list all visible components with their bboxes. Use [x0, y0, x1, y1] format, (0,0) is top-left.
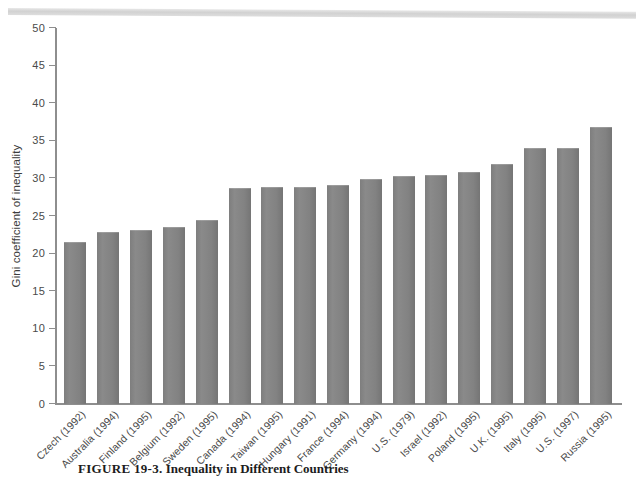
page-top-rule [8, 8, 636, 19]
y-axis-title: Gini coefficient of inequality [8, 28, 24, 404]
y-axis-tick: 25 [49, 215, 56, 216]
y-axis-line [55, 28, 57, 404]
y-axis-tick-label: 35 [32, 134, 45, 146]
figure-caption: FIGURE 19-3. Inequality in Different Cou… [78, 461, 349, 477]
y-axis-tick-label: 40 [32, 97, 45, 109]
y-axis-tick-label: 20 [32, 247, 45, 259]
y-axis-tick: 35 [49, 140, 56, 141]
y-axis-tick: 50 [49, 27, 56, 28]
y-axis-tick-label: 5 [39, 360, 45, 372]
bar [64, 242, 86, 404]
y-axis-tick: 0 [49, 403, 56, 404]
y-axis-tick: 40 [49, 102, 56, 103]
figure-container: Gini coefficient of inequality 051015202… [0, 0, 642, 483]
y-axis-tick: 5 [49, 365, 56, 366]
y-axis-tick-label: 0 [39, 398, 45, 410]
y-axis-tick: 15 [49, 290, 56, 291]
y-axis-tick: 10 [49, 328, 56, 329]
y-axis-tick: 45 [49, 65, 56, 66]
y-axis-tick: 30 [49, 177, 56, 178]
y-axis-title-text: Gini coefficient of inequality [10, 145, 22, 288]
plot-area: 05101520253035404550 [56, 28, 622, 404]
y-axis-tick-label: 30 [32, 172, 45, 184]
bar [491, 164, 513, 404]
bar [590, 127, 612, 404]
figure-caption-label: FIGURE 19-3. [78, 461, 163, 476]
y-axis-tick-label: 10 [32, 322, 45, 334]
bar [557, 148, 579, 404]
y-axis-tick-label: 45 [32, 59, 45, 71]
bar [524, 148, 546, 404]
y-axis-tick-label: 50 [32, 22, 45, 34]
y-axis-tick: 20 [49, 253, 56, 254]
y-axis-tick-label: 15 [32, 285, 45, 297]
figure-caption-text: Inequality in Different Countries [166, 461, 349, 476]
y-axis-tick-label: 25 [32, 210, 45, 222]
